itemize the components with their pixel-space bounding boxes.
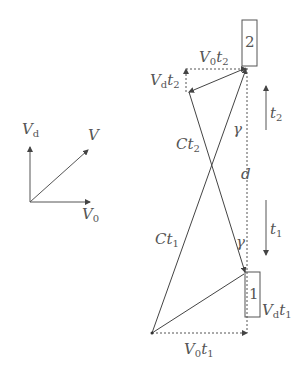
t2-label: t2 [270,106,282,123]
vdt2-label: Vdt2 [150,73,180,90]
vdt1-line [152,274,244,333]
box-2-label: 2 [245,35,255,50]
vdt1-label: Vdt1 [262,303,292,320]
vd-label: Vd [22,122,39,139]
v0t1-label: V0t1 [184,342,214,359]
gamma-bottom-label: γ [236,235,245,250]
v0t2-label: V0t2 [199,50,229,67]
diagram-canvas [0,0,305,376]
vector-legend [30,147,90,202]
ct1-line [152,69,246,333]
v-arrow [30,150,88,202]
vdt2-arrow [189,68,246,92]
v0-label: V0 [82,207,99,224]
t1-label: t1 [270,222,282,239]
box-1-label: 1 [249,287,259,302]
v-label: V [88,128,99,143]
ct2-label: Ct2 [176,137,200,154]
ct1-label: Ct1 [155,232,179,249]
gamma-top-label: γ [233,122,242,137]
d-label: d [241,167,251,182]
